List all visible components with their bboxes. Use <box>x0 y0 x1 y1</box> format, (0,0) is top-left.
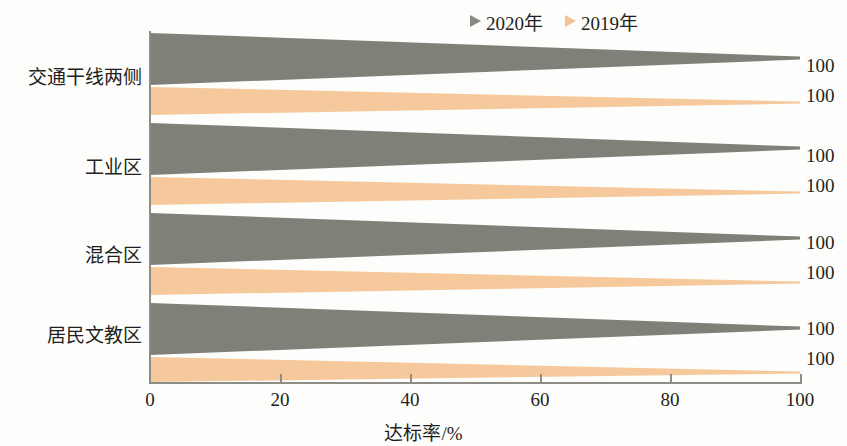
right-triangle-icon <box>470 15 481 27</box>
bar-2019-residential[interactable] <box>150 357 800 382</box>
bar-2020-traffic-arterial[interactable] <box>150 33 800 85</box>
value-label-2020-residential: 100 <box>806 318 847 340</box>
x-axis-tick-labels: 0 20 40 60 80 100 <box>0 389 847 419</box>
bar-2019-traffic-arterial[interactable] <box>150 87 800 115</box>
x-axis-tick-60 <box>540 374 542 382</box>
bar-2019-mixed[interactable] <box>150 267 800 295</box>
x-axis-tick-40 <box>410 374 412 382</box>
category-axis-labels: 交通干线两侧 工业区 混合区 居民文教区 <box>0 0 142 446</box>
legend-label-2020: 2020年 <box>486 8 543 35</box>
value-label-2019-industrial: 100 <box>806 175 847 197</box>
bar-2019-industrial[interactable] <box>150 177 800 205</box>
y-axis-line <box>149 31 151 384</box>
data-value-labels: 100 100 100 100 100 100 100 100 <box>806 0 847 446</box>
value-label-2019-mixed: 100 <box>806 262 847 284</box>
cone-bar-chart: 2020年 2019年 交通干线两侧 工业区 混合区 居民文教区 <box>0 0 847 446</box>
category-label-traffic-arterial: 交通干线两侧 <box>2 62 142 89</box>
category-label-industrial: 工业区 <box>2 152 142 179</box>
right-triangle-icon <box>565 15 576 27</box>
x-axis-title: 达标率/% <box>0 418 847 445</box>
bar-2020-residential[interactable] <box>150 303 800 355</box>
x-tick-label-60: 60 <box>510 389 570 411</box>
plot-area <box>150 33 800 382</box>
value-label-2020-traffic-arterial: 100 <box>806 55 847 77</box>
legend-label-2019: 2019年 <box>581 8 638 35</box>
x-axis-tick-80 <box>670 374 672 382</box>
x-axis-line <box>149 382 802 384</box>
value-label-2019-traffic-arterial: 100 <box>806 85 847 107</box>
bar-2020-mixed[interactable] <box>150 213 800 265</box>
x-axis-tick-100 <box>800 374 802 383</box>
category-label-residential: 居民文教区 <box>2 320 142 347</box>
x-axis-tick-20 <box>280 374 282 382</box>
legend-entry-2020[interactable]: 2020年 <box>470 8 543 35</box>
bar-2020-industrial[interactable] <box>150 123 800 175</box>
x-tick-label-0: 0 <box>120 389 180 411</box>
legend-entry-2019[interactable]: 2019年 <box>565 8 638 35</box>
x-tick-label-80: 80 <box>640 389 700 411</box>
bars-layer <box>150 33 800 382</box>
x-tick-label-20: 20 <box>250 389 310 411</box>
value-label-2020-industrial: 100 <box>806 145 847 167</box>
value-label-2020-mixed: 100 <box>806 232 847 254</box>
value-label-2019-residential: 100 <box>806 348 847 370</box>
x-tick-label-100: 100 <box>770 389 830 411</box>
x-tick-label-40: 40 <box>380 389 440 411</box>
category-label-mixed: 混合区 <box>2 240 142 267</box>
chart-legend: 2020年 2019年 <box>470 8 638 34</box>
